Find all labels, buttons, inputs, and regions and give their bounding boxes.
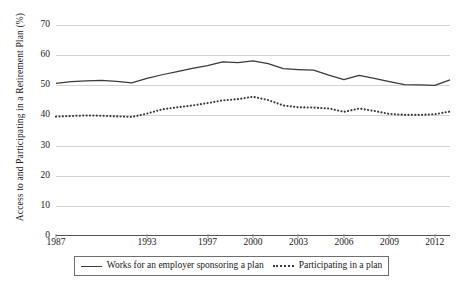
y-axis-tick-label: 30 — [20, 141, 50, 151]
x-axis-labels: 19871993199720002003200620092012 — [56, 238, 450, 254]
legend-label-participating: Participating in a plan — [299, 261, 383, 271]
retirement-plan-line-chart: Access to and Participating in a Retirem… — [0, 0, 461, 281]
x-axis-tick-label: 1993 — [137, 238, 156, 248]
x-axis-tick-label: 2000 — [244, 238, 263, 248]
x-axis-tick-label: 1997 — [198, 238, 217, 248]
legend-label-sponsoring: Works for an employer sponsoring a plan — [107, 261, 264, 271]
y-axis-tick-label: 20 — [20, 171, 50, 181]
y-axis-tick-label: 70 — [20, 20, 50, 30]
chart-legend: Works for an employer sponsoring a plan … — [74, 256, 389, 276]
plot-area: 010203040506070 — [56, 25, 450, 236]
solid-line-swatch-icon — [81, 266, 102, 267]
x-axis-tick-label: 1987 — [47, 238, 66, 248]
y-axis-tick-label: 40 — [20, 111, 50, 121]
x-axis-tick-label: 2006 — [334, 238, 353, 248]
y-axis-tick-label: 0 — [20, 231, 50, 241]
y-axis-tick-label: 50 — [20, 81, 50, 91]
series-lines — [56, 25, 450, 236]
x-axis-tick-label: 2003 — [289, 238, 308, 248]
x-axis-tick-label: 2009 — [380, 238, 399, 248]
y-axis-tick-label: 60 — [20, 50, 50, 60]
legend-entry-sponsoring: Works for an employer sponsoring a plan — [81, 261, 264, 271]
legend-entry-participating: Participating in a plan — [273, 261, 383, 271]
dotted-line-swatch-icon — [273, 265, 294, 267]
series-line-participating — [56, 97, 450, 117]
y-axis-tick-label: 10 — [20, 201, 50, 211]
x-axis-tick-label: 2012 — [425, 238, 444, 248]
series-line-sponsoring — [56, 61, 450, 85]
